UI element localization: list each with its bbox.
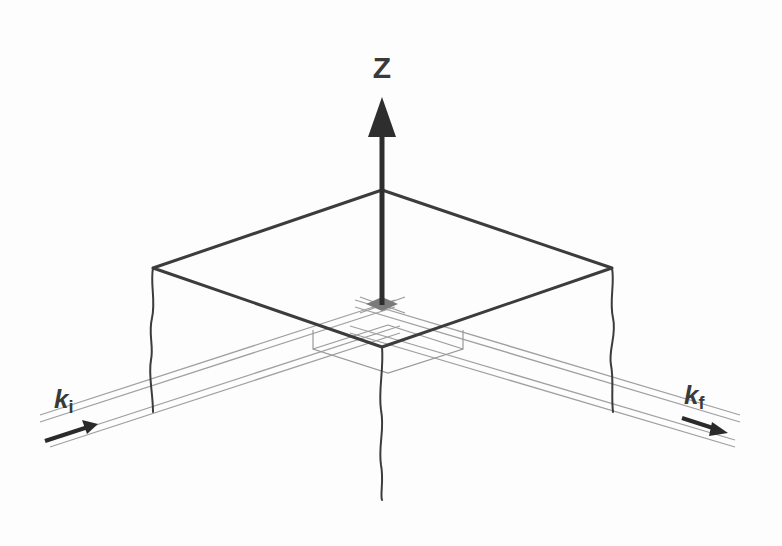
incident-k-label: ki — [54, 384, 73, 417]
scattering-diagram: Z ki kf — [0, 0, 782, 546]
right-edge — [610, 268, 614, 412]
z-axis-arrow — [368, 97, 396, 305]
diagram-canvas: Z ki kf — [0, 0, 782, 546]
final-beam-channel — [350, 300, 740, 447]
left-edge — [150, 268, 153, 412]
incident-arrow — [45, 420, 98, 441]
final-k-label: kf — [684, 380, 705, 413]
front-edge — [380, 347, 382, 500]
z-axis-label: Z — [373, 51, 391, 84]
